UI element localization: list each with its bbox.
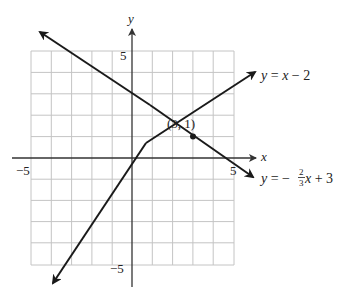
intersection-label: (3, 1) — [167, 116, 195, 131]
line-y-equals-x-minus-2 — [146, 72, 255, 143]
svg-text:x + 3: x + 3 — [304, 171, 333, 186]
fraction-denominator: 3 — [299, 178, 304, 188]
line-2-label: y = − 2 3 x + 3 — [259, 167, 333, 188]
svg-text:y = −: y = − — [259, 171, 290, 186]
line-1-label: y = x − 2 — [259, 68, 310, 83]
fraction-numerator: 2 — [299, 167, 304, 177]
intersection-point — [190, 134, 196, 140]
coordinate-graph: x y −5 5 5 −5 (3, 1) y = x − 2 y = − 2 3… — [0, 0, 352, 290]
y-axis-label: y — [126, 11, 134, 26]
tick-label-x-neg: −5 — [16, 163, 30, 178]
tick-label-y-pos: 5 — [120, 48, 127, 63]
tick-label-y-neg: −5 — [110, 261, 124, 276]
line-y-equals-neg-two-thirds-x-plus-3-lower — [150, 105, 253, 177]
x-axis-label: x — [260, 149, 267, 164]
